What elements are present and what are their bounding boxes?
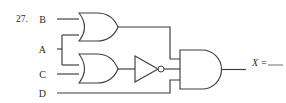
input-label-d: D	[39, 88, 46, 99]
logic-circuit-diagram: 27. B A C D X =	[0, 0, 286, 103]
not-gate-bubble-icon	[158, 66, 164, 72]
input-label-a: A	[39, 44, 47, 55]
input-label-b: B	[39, 14, 46, 25]
or-gate-2	[79, 54, 118, 83]
and-gate-output	[180, 50, 222, 89]
wire-d-to-and	[57, 80, 180, 93]
wire-or1-to-and	[118, 27, 180, 59]
not-gate-1	[135, 56, 158, 82]
problem-number: 27.	[16, 14, 28, 24]
output-answer-prompt: X =	[251, 57, 267, 68]
input-label-c: C	[39, 69, 46, 80]
worksheet-canvas: 27. B A C D X =	[0, 0, 286, 103]
or-gate-1	[79, 13, 118, 41]
